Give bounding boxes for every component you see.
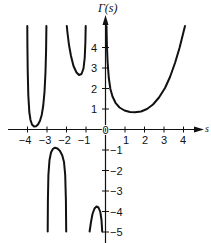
branch-minus2-to-minus1 xyxy=(67,26,86,75)
svg-text:−1: −1 xyxy=(110,144,123,156)
y-axis-title: Γ(s) xyxy=(97,1,118,15)
svg-text:−2: −2 xyxy=(58,134,71,146)
svg-text:3: 3 xyxy=(161,134,167,146)
x-axis-title: s xyxy=(205,123,209,134)
branch-minus3-to-minus2 xyxy=(48,148,66,232)
svg-text:1: 1 xyxy=(91,103,97,115)
branch-positive xyxy=(107,26,186,112)
svg-text:−5: −5 xyxy=(110,226,123,238)
gamma-function-plot: −4 −3 −2 −1 1 2 3 4 0 4 3 2 1 −1 −2 −3 −… xyxy=(0,0,211,243)
svg-text:−4: −4 xyxy=(19,134,32,146)
origin-label: 0 xyxy=(102,124,108,136)
svg-text:−1: −1 xyxy=(78,134,91,146)
svg-text:−3: −3 xyxy=(39,134,52,146)
svg-text:−2: −2 xyxy=(110,165,123,177)
x-axis-arrowhead xyxy=(194,127,204,133)
y-axis-arrowhead xyxy=(103,15,109,25)
svg-text:−4: −4 xyxy=(110,206,123,218)
svg-text:2: 2 xyxy=(142,134,148,146)
svg-text:3: 3 xyxy=(91,62,97,74)
branch-minus4-to-minus3 xyxy=(27,26,46,127)
svg-text:4: 4 xyxy=(180,134,186,146)
svg-text:−3: −3 xyxy=(110,185,123,197)
svg-text:1: 1 xyxy=(123,134,129,146)
branch-minus1-to-0 xyxy=(90,207,103,232)
svg-text:2: 2 xyxy=(91,83,97,95)
svg-text:4: 4 xyxy=(91,42,97,54)
